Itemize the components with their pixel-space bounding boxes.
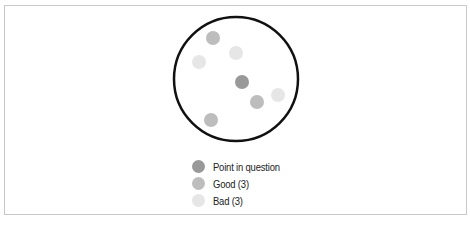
- legend-item-good: Good (3): [192, 175, 287, 192]
- good-point: [206, 31, 220, 45]
- legend-label: Bad (3): [213, 195, 243, 207]
- good-point-swatch-icon: [192, 177, 205, 190]
- legend-item-question: Point in question: [192, 158, 287, 175]
- bad-point-swatch-icon: [192, 194, 205, 207]
- legend-item-bad: Bad (3): [192, 192, 287, 209]
- good-point: [250, 95, 264, 109]
- question-point-swatch-icon: [192, 160, 205, 173]
- points-group: [192, 31, 285, 127]
- legend-label: Good (3): [213, 178, 249, 190]
- bad-point: [192, 55, 206, 69]
- good-point: [204, 113, 218, 127]
- bad-point: [229, 46, 243, 60]
- bad-point: [271, 88, 285, 102]
- legend: Point in question Good (3) Bad (3): [192, 158, 287, 209]
- question-point: [235, 75, 249, 89]
- legend-label: Point in question: [213, 161, 280, 173]
